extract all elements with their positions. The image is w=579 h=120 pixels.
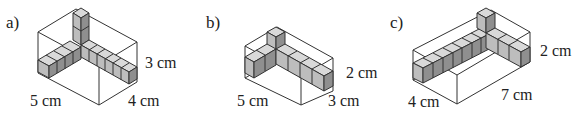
figure-c: c) (380, 0, 579, 120)
dim-label-width-c: 4 cm (408, 94, 440, 110)
dim-label-height-c: 2 cm (540, 43, 572, 59)
dim-label-width-a: 4 cm (128, 93, 160, 109)
cube-row-long-c (413, 28, 491, 83)
cube-column-a (73, 8, 89, 45)
dim-label-length-a: 5 cm (30, 93, 62, 109)
figure-b: b) 2 (200, 0, 380, 120)
dim-label-height-b: 2 cm (346, 65, 378, 81)
cube-row-right-b (276, 44, 333, 91)
cube-row-short-c (486, 28, 530, 67)
cube-row-left-a (38, 41, 81, 78)
dim-label-length-c: 7 cm (501, 87, 533, 103)
dim-label-width-b: 3 cm (328, 93, 360, 109)
figure-a: a) (0, 0, 200, 120)
dim-label-length-b: 5 cm (237, 93, 269, 109)
dim-label-height-a: 3 cm (145, 55, 177, 71)
